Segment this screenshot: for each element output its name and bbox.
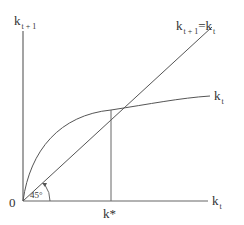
x-axis-label: kt	[212, 194, 222, 211]
forty-five-degree-line-label: kt + 1=kt	[176, 19, 215, 36]
forty-five-degree-line	[23, 27, 212, 201]
steady-state-label: k*	[103, 207, 116, 220]
y-axis-label: kt + 1	[14, 14, 36, 31]
origin-label: 0	[9, 196, 16, 209]
capital-accumulation-curve	[23, 96, 210, 201]
angle-arc-icon	[45, 185, 50, 201]
curve-label: kt	[214, 89, 224, 106]
angle-label: 45°	[30, 191, 43, 200]
